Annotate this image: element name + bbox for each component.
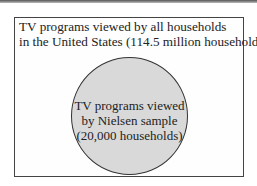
sample-label: TV programs viewed by Nielsen sample (20…	[71, 99, 188, 143]
population-label: TV programs viewed by all households in …	[19, 20, 247, 49]
sample-label-line-3: (20,000 households)	[71, 129, 188, 144]
population-label-line-1: TV programs viewed by all households	[19, 20, 247, 35]
sample-label-line-2: by Nielsen sample	[71, 114, 188, 129]
population-label-line-2: in the United States (114.5 million hous…	[19, 35, 247, 50]
sample-label-line-1: TV programs viewed	[71, 99, 188, 114]
top-edge-bar	[0, 0, 257, 3]
